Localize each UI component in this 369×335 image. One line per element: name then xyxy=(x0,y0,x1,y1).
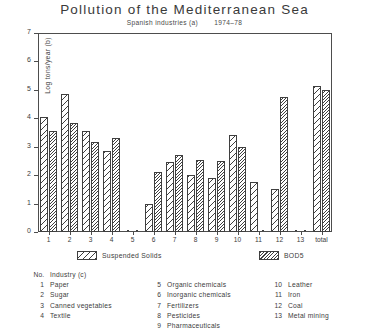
industry-key-spacer xyxy=(265,271,329,281)
x-axis-tick-mark xyxy=(91,232,92,235)
y-axis-tick: 2 xyxy=(0,175,38,176)
industry-key-row: 5Organic chemicals xyxy=(144,281,231,291)
x-axis-tick-mark xyxy=(70,232,71,235)
x-axis-tick-mark xyxy=(238,232,239,235)
bar-bod5 xyxy=(304,230,306,232)
x-axis-tick-mark xyxy=(301,232,302,235)
industry-key-name: Sugar xyxy=(44,291,69,298)
industry-key-name: Pharmaceuticals xyxy=(161,322,220,329)
industry-key-number: 2 xyxy=(27,291,44,298)
y-axis-tick-label: 5 xyxy=(27,85,31,92)
industry-key-number: 1 xyxy=(27,281,44,288)
industry-key-number: 7 xyxy=(144,302,161,309)
industry-key-row: 3Canned vegetables xyxy=(27,302,112,312)
chart-title: Pollution of the Mediterranean Sea xyxy=(0,2,369,17)
industry-key-number: 4 xyxy=(27,312,44,319)
x-axis-tick-label: 4 xyxy=(110,236,114,243)
legend-item-bod5: BOD5 xyxy=(259,249,304,261)
industry-key-number: 13 xyxy=(265,312,282,319)
x-axis-tick-label: 1 xyxy=(47,236,51,243)
x-axis-tick-label: 12 xyxy=(276,236,283,243)
bar-bod5 xyxy=(136,230,138,232)
bar-bod5 xyxy=(70,123,78,232)
bar-bod5 xyxy=(196,160,204,232)
bar-suspended-solids xyxy=(208,178,216,232)
bar-bod5 xyxy=(91,142,99,232)
x-axis-tick-label: 10 xyxy=(234,236,241,243)
chart-subtitle: Spanish industries (a)1974–78 xyxy=(0,19,369,26)
bar-bod5 xyxy=(154,172,162,232)
x-axis-tick-mark xyxy=(175,232,176,235)
bar-suspended-solids xyxy=(229,135,237,232)
x-axis-tick-mark xyxy=(259,232,260,235)
x-axis-tick-label: 11 xyxy=(255,236,262,243)
x-axis-tick-label: total xyxy=(315,236,327,243)
y-axis-tick: 7 xyxy=(0,33,38,34)
y-axis-tick: 1 xyxy=(0,204,38,205)
bar-bod5 xyxy=(322,90,330,232)
industry-key-name: Organic chemicals xyxy=(161,281,226,288)
x-axis-tick-label: 3 xyxy=(89,236,93,243)
y-axis-tick-label: 3 xyxy=(27,142,31,149)
industry-key-name: Metal mining xyxy=(282,312,329,319)
y-axis-tick: 5 xyxy=(0,90,38,91)
y-axis-tick-label: 6 xyxy=(27,56,31,63)
industry-key-row: 7Fertilizers xyxy=(144,302,231,312)
y-axis-tick-mark xyxy=(34,232,38,233)
industry-key-row: 1Paper xyxy=(27,281,112,291)
industry-key-name: Inorganic chemicals xyxy=(161,291,231,298)
industry-key-header-row: No.Industry (c) xyxy=(27,271,112,281)
industry-key-number: 8 xyxy=(144,312,161,319)
bar-suspended-solids xyxy=(103,151,111,232)
chart-subtitle-years: 1974–78 xyxy=(214,19,242,26)
industry-key-number: 5 xyxy=(144,281,161,288)
industry-key-name: Paper xyxy=(44,281,69,288)
industry-key-row: 9Pharmaceuticals xyxy=(144,322,231,332)
x-axis-tick-mark xyxy=(112,232,113,235)
x-axis-tick-label: 8 xyxy=(194,236,198,243)
x-axis-tick-label: 13 xyxy=(297,236,304,243)
industry-key-name: Coal xyxy=(282,302,303,309)
x-axis-tick-label: 5 xyxy=(131,236,135,243)
industry-key-header-industry: Industry (c) xyxy=(44,271,86,278)
industry-key-row: 6Inorganic chemicals xyxy=(144,291,231,301)
y-axis-tick-label: 1 xyxy=(27,199,31,206)
bar-bod5 xyxy=(217,161,225,232)
x-axis-tick-mark xyxy=(196,232,197,235)
y-axis-tick-label: 0 xyxy=(27,227,31,234)
x-axis-tick-label: 2 xyxy=(68,236,72,243)
y-axis-tick-label: 4 xyxy=(27,113,31,120)
x-axis-tick-mark xyxy=(154,232,155,235)
industry-key-row: 10Leather xyxy=(265,281,329,291)
bar-suspended-solids xyxy=(313,86,321,232)
x-axis-tick-label: 9 xyxy=(215,236,219,243)
bar-suspended-solids xyxy=(166,162,174,232)
bar-suspended-solids xyxy=(61,94,69,232)
bar-suspended-solids xyxy=(127,230,129,232)
industry-key-name: Pesticides xyxy=(161,312,200,319)
industry-key-row: 2Sugar xyxy=(27,291,112,301)
bar-suspended-solids xyxy=(82,131,90,232)
industry-key-row: 11Iron xyxy=(265,291,329,301)
x-axis-tick-mark xyxy=(217,232,218,235)
y-axis-tick: 4 xyxy=(0,118,38,119)
industry-key-number: 3 xyxy=(27,302,44,309)
legend-swatch-suspended-solids-icon xyxy=(77,251,97,260)
legend-item-suspended-solids: Suspended Solids xyxy=(77,249,162,261)
industry-key-row: 8Pesticides xyxy=(144,312,231,322)
legend-label-suspended-solids: Suspended Solids xyxy=(102,252,162,259)
industry-key-number: 6 xyxy=(144,291,161,298)
x-axis-tick-mark xyxy=(133,232,134,235)
bar-suspended-solids xyxy=(271,189,279,232)
y-axis-tick: 3 xyxy=(0,147,38,148)
industry-key-column-1: No.Industry (c)1Paper2Sugar3Canned veget… xyxy=(27,271,112,322)
y-axis-tick-label: 2 xyxy=(27,170,31,177)
pollution-bar-chart-figure: Pollution of the Mediterranean Sea Spani… xyxy=(0,0,369,335)
industry-key-number: 12 xyxy=(265,302,282,309)
bar-bod5 xyxy=(175,155,183,232)
bar-bod5 xyxy=(112,138,120,232)
industry-key-number: 9 xyxy=(144,322,161,329)
industry-key-name: Iron xyxy=(282,291,301,298)
x-axis-tick-mark xyxy=(322,232,323,235)
chart-subtitle-region: Spanish industries (a) xyxy=(127,19,198,26)
